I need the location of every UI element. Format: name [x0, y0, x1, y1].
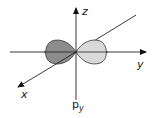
- orbital-title: py: [72, 99, 84, 113]
- orbital-title-main: p: [72, 98, 79, 111]
- orbital-title-subscript: y: [79, 104, 84, 113]
- z-axis-label: z: [82, 6, 88, 17]
- y-axis-label: y: [137, 59, 144, 70]
- x-axis-label: x: [21, 89, 28, 100]
- p-orbital-diagram: z y x py: [0, 0, 156, 118]
